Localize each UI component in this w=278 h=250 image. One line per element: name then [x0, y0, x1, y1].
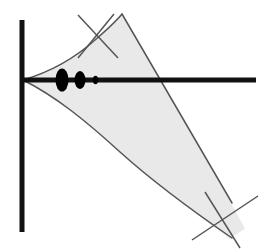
ellipse-large	[56, 69, 69, 92]
diagram-canvas	[0, 0, 278, 250]
ellipse-medium	[75, 71, 86, 89]
figure-root	[0, 0, 278, 250]
ellipse-small	[93, 76, 98, 84]
